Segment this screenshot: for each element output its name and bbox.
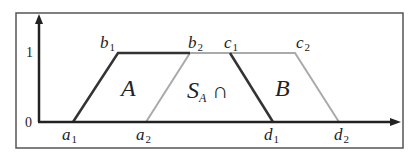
- label-c1: c1: [224, 34, 238, 53]
- label-a1: a1: [62, 126, 77, 145]
- label-b2: b2: [188, 34, 203, 53]
- label-c2: c2: [296, 34, 310, 53]
- label-d2: d2: [334, 126, 349, 145]
- label-d1: d1: [264, 126, 279, 145]
- region-label-a: A: [121, 76, 136, 100]
- x-axis-arrow-icon: [390, 118, 401, 126]
- label-b1: b1: [100, 34, 115, 53]
- y-tick-one: 1: [26, 46, 33, 60]
- trapezoid-a-right: [230, 53, 273, 122]
- label-a2: a2: [136, 126, 151, 145]
- region-label-intersection: SA∩: [187, 78, 228, 104]
- trapezoid-b: [146, 53, 339, 122]
- y-axis-arrow-icon: [35, 14, 43, 24]
- y-tick-zero: 0: [25, 116, 32, 130]
- region-label-b: B: [275, 76, 290, 100]
